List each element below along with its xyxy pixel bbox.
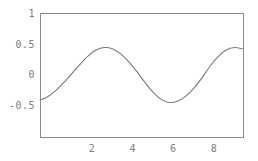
x-tick-label-6: 6 <box>170 143 177 154</box>
chart-container: 1 0.5 0 -0.5 2 4 6 8 <box>0 0 258 161</box>
x-tick-label-4: 4 <box>129 143 136 154</box>
y-tick-label-0point5: 0.5 <box>15 39 35 50</box>
x-tick-label-8: 8 <box>211 143 218 154</box>
y-tick-label-0: 0 <box>28 69 35 80</box>
y-tick-label-1: 1 <box>28 8 35 19</box>
x-tick-label-2: 2 <box>89 143 96 154</box>
chart-background <box>0 0 258 161</box>
y-tick-label-minus0point5: -0.5 <box>9 100 35 111</box>
line-chart: 1 0.5 0 -0.5 2 4 6 8 <box>0 0 258 161</box>
